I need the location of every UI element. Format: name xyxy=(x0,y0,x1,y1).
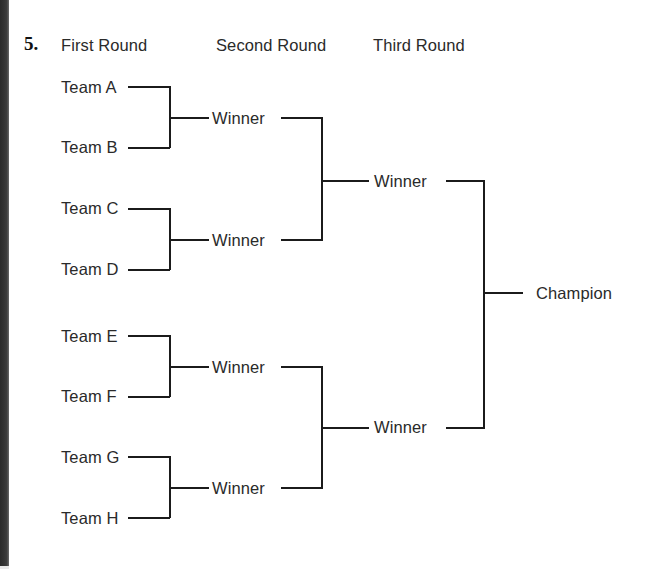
connector-r2-winner-2 xyxy=(281,239,323,241)
team-h-label: Team H xyxy=(61,509,118,528)
champion-label: Champion xyxy=(536,284,612,303)
round2-winner-3-label: Winner xyxy=(212,358,265,377)
connector-team-c xyxy=(128,208,170,210)
connector-team-g xyxy=(128,456,170,458)
connector-r3-winner-2 xyxy=(321,427,369,429)
connector-team-f xyxy=(128,396,170,398)
connector-r2-winner-4 xyxy=(281,487,323,489)
connector-r2-winner-1 xyxy=(281,117,323,119)
team-e-label: Team E xyxy=(61,327,118,346)
connector-cd-winner xyxy=(169,239,209,241)
team-d-label: Team D xyxy=(61,260,118,279)
round3-winner-1-label: Winner xyxy=(374,172,427,191)
team-f-label: Team F xyxy=(61,387,117,406)
round2-winner-4-label: Winner xyxy=(212,479,265,498)
connector-ef-winner xyxy=(169,366,209,368)
team-a-label: Team A xyxy=(61,78,117,97)
connector-team-a xyxy=(128,86,170,88)
connector-champion xyxy=(483,292,523,294)
connector-ab-winner xyxy=(169,117,209,119)
round-header-second: Second Round xyxy=(216,36,326,55)
bracket-diagram-page: 5. First Round Second Round Third Round … xyxy=(0,0,652,569)
connector-r3-winner-2-out xyxy=(446,427,485,429)
team-b-label: Team B xyxy=(61,138,118,157)
team-g-label: Team G xyxy=(61,448,119,467)
team-c-label: Team C xyxy=(61,199,118,218)
connector-r2-winner-3 xyxy=(281,366,323,368)
connector-team-e xyxy=(128,335,170,337)
connector-r3-winner-1-out xyxy=(446,180,485,182)
connector-team-d xyxy=(128,269,170,271)
bracket-join-final xyxy=(483,180,485,429)
question-number: 5. xyxy=(24,33,38,55)
round2-winner-1-label: Winner xyxy=(212,109,265,128)
round2-winner-2-label: Winner xyxy=(212,231,265,250)
round-header-third: Third Round xyxy=(373,36,465,55)
round-header-first: First Round xyxy=(61,36,147,55)
bracket-join-r2-top xyxy=(321,117,323,240)
connector-gh-winner xyxy=(169,487,209,489)
connector-team-b xyxy=(128,147,170,149)
connector-r3-winner-1 xyxy=(321,180,369,182)
connector-team-h xyxy=(128,517,170,519)
round3-winner-2-label: Winner xyxy=(374,418,427,437)
scan-edge-left xyxy=(0,0,9,566)
